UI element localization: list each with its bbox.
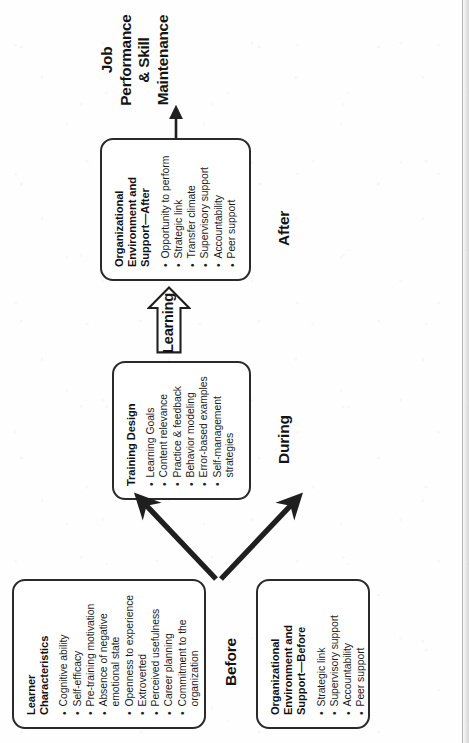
node-training-design[interactable]: Training Design Learning Goals Content r… [112, 361, 251, 500]
node-learner-characteristics[interactable]: Learner Characteristics Cognitive abilit… [12, 579, 206, 729]
bullet-list: Strategic link Supervisory support Accou… [316, 593, 368, 715]
page-edge-line [462, 0, 463, 743]
list-item: Behavior modeling [185, 375, 197, 486]
node-title: Organizational Environment and Support—B… [269, 593, 309, 715]
outcome-line-1: Job [98, 47, 115, 74]
phase-label-after: After [275, 211, 293, 246]
node-title-line-2: Characteristics [38, 636, 50, 715]
bullet-list: Learning Goals Content relevance Practic… [145, 375, 236, 486]
node-title-line-1: Organizational [113, 191, 125, 267]
learning-arrow-shape [147, 286, 191, 354]
phase-label-during: During [275, 415, 293, 464]
list-item: Accountability [342, 593, 354, 715]
node-organizational-environment-before[interactable]: Organizational Environment and Support—B… [256, 579, 370, 729]
phase-label-before: Before [222, 638, 240, 686]
bullet-list: Cognitive ability Self-efficacy Pre-trai… [58, 593, 201, 715]
list-item: Supervisory support [199, 152, 211, 267]
outcome-line-4: Maintenance [154, 15, 171, 105]
arrow-organizational-before-to-training [215, 491, 307, 583]
bullet-list: Opportunity to perform Strategic link Tr… [160, 152, 239, 267]
list-item: Self-management strategies [212, 375, 236, 486]
node-title-line-1: Learner [25, 675, 37, 715]
list-item: Error-based examples [198, 375, 210, 486]
list-item: Pre-training motivation [85, 593, 97, 715]
list-item: Extroverted [137, 593, 149, 715]
node-title-line-2: Environment and [126, 177, 138, 267]
node-title: Training Design [125, 375, 138, 486]
list-item: Content relevance [158, 375, 170, 486]
list-item: Strategic link [173, 152, 185, 267]
list-item: Self-efficacy [72, 593, 84, 715]
list-item: Strategic link [316, 593, 328, 715]
node-title-line-1: Organizational [269, 639, 281, 715]
list-item: Accountability [213, 152, 225, 267]
node-title-line-3: Support—Before [295, 627, 307, 715]
list-item: Supervisory support [329, 593, 341, 715]
node-title: Organizational Environment and Support—A… [113, 152, 153, 267]
outcome-label: Job Performance & Skill Maintenance [98, 7, 172, 113]
list-item: Peer support [355, 593, 367, 715]
list-item: Openness to experience [124, 593, 136, 715]
rotated-page-wrapper: Learner Characteristics Cognitive abilit… [0, 0, 469, 743]
list-item: Opportunity to perform [160, 152, 172, 267]
list-item: Learning Goals [145, 375, 157, 486]
node-title-line-3: Support—After [139, 188, 151, 267]
learning-block-arrow: Learning [147, 286, 191, 354]
list-item: Practice & feedback [172, 375, 184, 486]
outcome-line-3: & Skill [135, 37, 152, 82]
arrow-after-to-outcome [155, 100, 197, 140]
diagram-canvas: Learner Characteristics Cognitive abilit… [0, 0, 469, 743]
node-organizational-environment-after[interactable]: Organizational Environment and Support—A… [100, 138, 251, 281]
list-item: Commitment to the organization [177, 593, 201, 715]
list-item: Peer support [226, 152, 238, 267]
list-item: Transfer climate [186, 152, 198, 267]
node-title-line-2: Environment and [282, 625, 294, 715]
list-item: Career planning [163, 593, 175, 715]
list-item: Perceived usefulness [150, 593, 162, 715]
list-item: Cognitive ability [58, 593, 70, 715]
page-edge-shadow [462, 0, 469, 743]
node-title-line-1: Training Design [125, 404, 137, 486]
list-item: Absence of negative emotional state [98, 593, 122, 715]
outcome-line-2: Performance [117, 14, 134, 105]
arrow-learner-to-training [130, 491, 222, 583]
node-title: Learner Characteristics [25, 593, 51, 715]
